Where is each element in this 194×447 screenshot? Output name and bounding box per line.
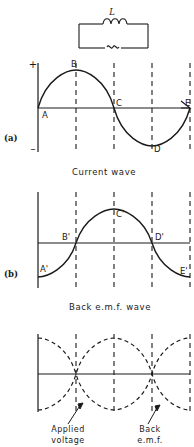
ac-source-icon: [107, 46, 119, 48]
applied-voltage-label-line1: Applied: [51, 425, 85, 434]
point-label-d: D: [154, 144, 161, 154]
panel-label-b: (b): [4, 269, 18, 279]
point-label-e-prime: E': [180, 266, 188, 276]
point-label-b-prime: B': [62, 232, 70, 242]
back-emf-label-line2: e.m.f.: [137, 436, 163, 445]
panel-c-applied-voltage-back-emf: Applied voltage Back e.m.f.: [38, 334, 190, 445]
point-label-d-prime: D': [155, 232, 164, 242]
back-emf-label-line1: Back: [139, 425, 160, 434]
inductor-coil-icon: [103, 19, 127, 24]
point-label-a-prime: A': [40, 264, 48, 274]
panel-b-back-emf-wave: A' B' C' D' E' (b) Back e.m.f. wave: [4, 192, 190, 312]
point-label-b: B: [71, 59, 77, 69]
panel-a-caption: Current wave: [72, 167, 136, 177]
panel-a-minus-sign: –: [31, 143, 36, 154]
point-label-c: C: [116, 98, 122, 108]
panel-label-a: (a): [4, 133, 18, 143]
point-label-c-prime: C': [116, 209, 124, 219]
ac-inductor-circuit: L: [79, 7, 148, 48]
panel-a-plus-sign: +: [29, 59, 37, 70]
panel-b-caption: Back e.m.f. wave: [69, 302, 151, 312]
point-label-e: E: [185, 98, 190, 108]
figure-canvas: L + – A B C D E (a): [0, 0, 194, 447]
physics-figure: L + – A B C D E (a): [0, 0, 194, 447]
point-label-a: A: [42, 110, 48, 120]
panel-a-current-wave: + – A B C D E (a) Current wave: [4, 59, 190, 177]
applied-voltage-label-line2: voltage: [51, 436, 84, 445]
inductor-label: L: [108, 7, 115, 17]
